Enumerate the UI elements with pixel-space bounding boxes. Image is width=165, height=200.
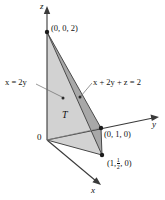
vertex-dot-apex (45, 30, 49, 34)
vertex-label-apex: (0, 0, 2) (51, 24, 78, 33)
leader-dot-left-plane (62, 97, 65, 100)
x-axis-label: x (91, 186, 95, 195)
z-axis-label: z (40, 2, 44, 11)
region-label-T: T (62, 110, 68, 120)
vertex-label-y-intercept: (0, 1, 0) (104, 130, 131, 139)
y-axis-label: y (152, 120, 156, 129)
vertex-dot-yintercept (99, 126, 103, 130)
vertex-label-x-point-prefix: (1, (107, 158, 116, 168)
figure-container: z y x 0 (0, 0, 2) (0, 1, 0) (1,12, 0) T … (0, 0, 165, 200)
annotation-slant-plane: x + 2y + z = 2 (93, 78, 141, 87)
vertex-label-x-point-suffix: , 0) (120, 158, 131, 168)
leader-line-slant-plane (81, 83, 92, 96)
one-half-fraction: 12 (117, 157, 120, 171)
origin-label: 0 (37, 133, 42, 142)
diagram-canvas (0, 0, 165, 200)
vertex-label-x-point: (1,12, 0) (107, 157, 132, 171)
vertex-dot-xpoint (100, 153, 104, 157)
z-axis-arrowhead (44, 6, 50, 14)
leader-dot-slant-plane (79, 96, 82, 99)
annotation-left-plane: x = 2y (5, 78, 27, 87)
